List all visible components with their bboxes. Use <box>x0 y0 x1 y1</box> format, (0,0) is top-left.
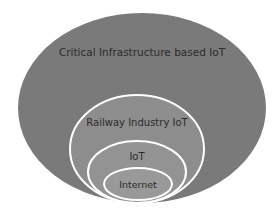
label-railway-industry: Railway Industry IoT <box>86 117 188 128</box>
nested-ellipse-diagram: Critical Infrastructure based IoT Railwa… <box>0 0 280 214</box>
label-critical-infrastructure: Critical Infrastructure based IoT <box>59 46 226 58</box>
label-iot: IoT <box>129 151 145 162</box>
label-internet: Internet <box>119 179 157 190</box>
